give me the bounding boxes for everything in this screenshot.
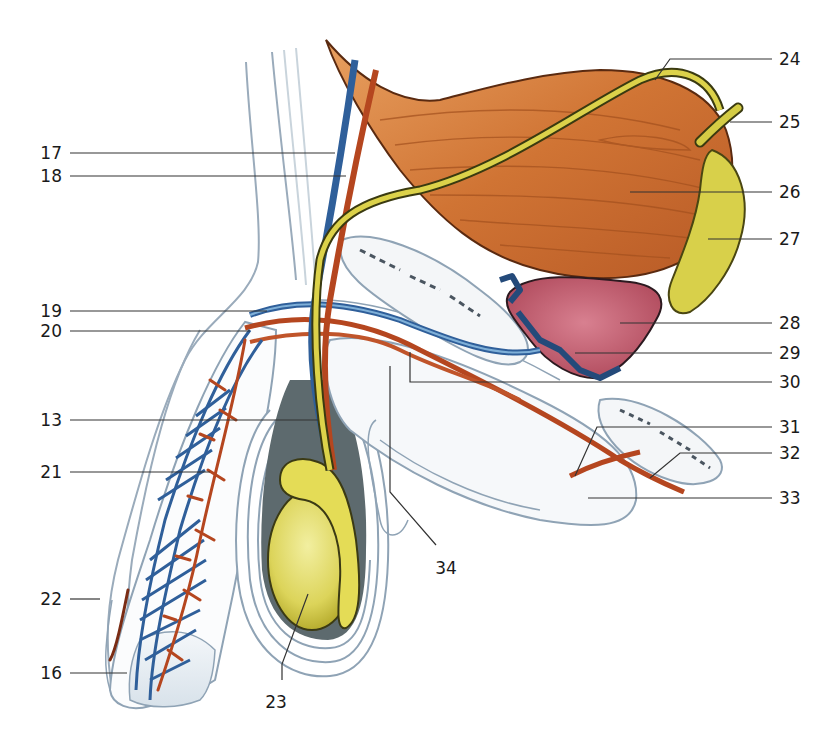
label-23: 23 (256, 692, 296, 712)
label-24: 24 (779, 49, 801, 69)
label-25: 25 (779, 112, 801, 132)
label-22: 22 (22, 589, 62, 609)
label-27: 27 (779, 229, 801, 249)
label-17: 17 (22, 143, 62, 163)
label-28: 28 (779, 313, 801, 333)
label-30: 30 (779, 372, 801, 392)
label-21: 21 (22, 462, 62, 482)
label-18: 18 (22, 166, 62, 186)
label-32: 32 (779, 443, 801, 463)
label-13: 13 (22, 410, 62, 430)
label-29: 29 (779, 343, 801, 363)
label-19: 19 (22, 301, 62, 321)
label-33: 33 (779, 488, 801, 508)
label-16: 16 (22, 663, 62, 683)
anatomy-illustration (0, 0, 836, 749)
label-26: 26 (779, 182, 801, 202)
label-20: 20 (22, 321, 62, 341)
label-31: 31 (779, 417, 801, 437)
label-34: 34 (426, 558, 466, 578)
